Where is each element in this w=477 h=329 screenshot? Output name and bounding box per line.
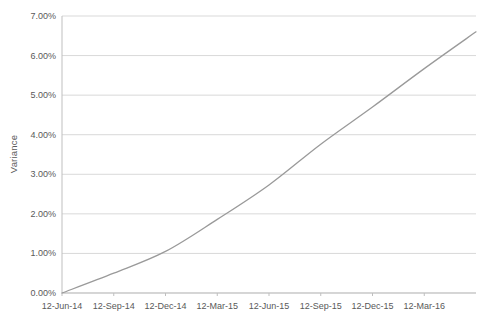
- y-tick-label: 6.00%: [30, 51, 56, 61]
- y-tick-label: 5.00%: [30, 90, 56, 100]
- x-tick-label: 12-Sep-14: [93, 301, 135, 311]
- x-tick-label: 12-Sep-15: [300, 301, 342, 311]
- x-tick-label: 12-Mar-15: [196, 301, 238, 311]
- x-tick-label: 12-Mar-16: [403, 301, 445, 311]
- y-axis-labels: 0.00%1.00%2.00%3.00%4.00%5.00%6.00%7.00%: [30, 11, 56, 298]
- y-tick-label: 4.00%: [30, 130, 56, 140]
- x-tick-label: 12-Jun-15: [249, 301, 290, 311]
- y-gridlines: [62, 16, 476, 293]
- y-tick-label: 1.00%: [30, 248, 56, 258]
- y-tick-label: 3.00%: [30, 169, 56, 179]
- y-axis-title: Variance: [8, 135, 19, 173]
- chart-canvas: 0.00%1.00%2.00%3.00%4.00%5.00%6.00%7.00%…: [0, 0, 477, 329]
- y-tick-label: 2.00%: [30, 209, 56, 219]
- axes: [62, 16, 476, 296]
- x-tick-label: 12-Dec-14: [144, 301, 186, 311]
- x-tick-label: 12-Jun-14: [42, 301, 83, 311]
- y-tick-label: 7.00%: [30, 11, 56, 21]
- y-tick-label: 0.00%: [30, 288, 56, 298]
- x-tick-label: 12-Dec-15: [351, 301, 393, 311]
- variance-line-chart: 0.00%1.00%2.00%3.00%4.00%5.00%6.00%7.00%…: [0, 0, 477, 329]
- x-axis-labels: 12-Jun-1412-Sep-1412-Dec-1412-Mar-1512-J…: [42, 301, 445, 311]
